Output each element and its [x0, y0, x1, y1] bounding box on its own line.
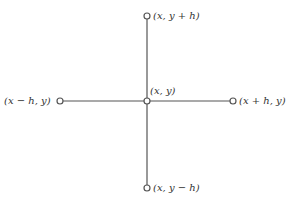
label-right: (x + h, y): [239, 95, 286, 107]
label-bottom: (x, y − h): [153, 182, 200, 194]
stencil-diagram: (x, y + h) (x − h, y) (x, y) (x + h, y) …: [0, 0, 292, 202]
node-center: [144, 98, 150, 104]
node-top: [144, 13, 150, 19]
node-left: [57, 98, 63, 104]
label-left: (x − h, y): [4, 95, 51, 107]
node-bottom: [144, 185, 150, 191]
label-center: (x, y): [150, 85, 175, 97]
node-right: [230, 98, 236, 104]
label-top: (x, y + h): [153, 10, 200, 22]
